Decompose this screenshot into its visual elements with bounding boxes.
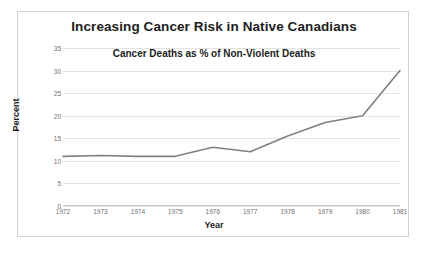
chart-title: Increasing Cancer Risk in Native Canadia… — [18, 19, 410, 34]
chart-container: Increasing Cancer Risk in Native Canadia… — [17, 11, 409, 237]
y-axis-tick-label: 15 — [39, 135, 61, 142]
y-axis-title: Percent — [11, 98, 21, 131]
x-axis-tick-label: 1973 — [83, 208, 117, 215]
x-axis-tick-label: 1976 — [196, 208, 230, 215]
x-axis-tick-label: 1981 — [383, 208, 417, 215]
y-axis-tick-label: 35 — [39, 45, 61, 52]
x-axis-tick-label: 1975 — [158, 208, 192, 215]
y-axis-tick-labels: 05101520253035 — [35, 48, 61, 206]
x-axis-tick-label: 1980 — [346, 208, 380, 215]
x-axis-title: Year — [18, 220, 410, 230]
data-series-line — [63, 48, 400, 206]
y-axis-tick-label: 20 — [39, 112, 61, 119]
y-axis-tick-label: 5 — [39, 180, 61, 187]
x-axis-tick-label: 1974 — [121, 208, 155, 215]
x-axis-tick-label: 1977 — [233, 208, 267, 215]
gridline — [63, 206, 400, 207]
plot-area — [63, 48, 400, 206]
y-axis-tick-label: 30 — [39, 67, 61, 74]
x-axis-tick-label: 1978 — [271, 208, 305, 215]
x-axis-tick-label: 1979 — [308, 208, 342, 215]
y-axis-tick-label: 25 — [39, 90, 61, 97]
y-axis-tick-label: 10 — [39, 157, 61, 164]
x-axis-tick-label: 1972 — [46, 208, 80, 215]
